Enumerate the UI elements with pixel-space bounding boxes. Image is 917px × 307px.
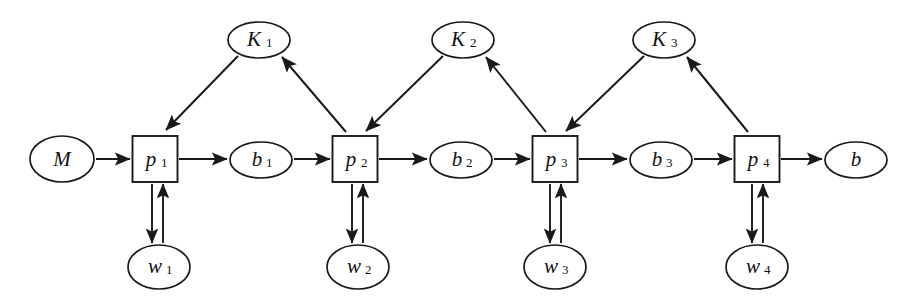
node-p3-label: p <box>544 147 557 171</box>
node-K1[interactable]: K 1 <box>228 22 290 58</box>
node-b3-label: b <box>652 147 663 171</box>
node-p1-subscript: 1 <box>161 155 168 170</box>
node-K2-subscript: 2 <box>470 35 477 50</box>
node-K2-label: K <box>450 27 466 51</box>
node-b2-subscript: 2 <box>466 155 473 170</box>
node-p2[interactable]: p 2 <box>333 136 378 182</box>
node-K1-subscript: 1 <box>266 35 273 50</box>
node-p3[interactable]: p 3 <box>533 136 578 182</box>
node-p3-subscript: 3 <box>561 155 568 170</box>
node-w3-label: w <box>544 254 558 278</box>
edge-p1-w1-double <box>152 184 163 243</box>
node-w2-label: w <box>347 254 361 278</box>
edge-p4-to-K3 <box>687 57 748 132</box>
node-w1-label: w <box>148 254 162 278</box>
edge-K3-to-p3 <box>566 56 644 131</box>
diagram-canvas: M p 1 b 1 p 2 b 2 p 3 <box>0 0 917 307</box>
edge-K2-to-p2 <box>366 56 443 131</box>
node-w4-label: w <box>746 254 760 278</box>
node-K3-label: K <box>651 27 667 51</box>
node-K3-subscript: 3 <box>671 35 678 50</box>
node-w4-subscript: 4 <box>764 262 771 277</box>
node-w2[interactable]: w 2 <box>327 245 389 289</box>
edge-p2-to-K1 <box>282 57 346 132</box>
edge-p4-w4-double <box>752 184 763 243</box>
node-M[interactable]: M <box>30 136 94 182</box>
node-b[interactable]: b <box>825 142 887 178</box>
node-p4-label: p <box>746 147 759 171</box>
node-b1[interactable]: b 1 <box>230 142 292 178</box>
node-w1-subscript: 1 <box>166 262 173 277</box>
edge-p3-w3-double <box>550 184 561 243</box>
node-b3[interactable]: b 3 <box>630 142 692 178</box>
node-b1-subscript: 1 <box>266 155 273 170</box>
node-w2-subscript: 2 <box>365 262 372 277</box>
edge-K1-to-p1 <box>166 56 238 130</box>
node-b-label: b <box>851 147 862 171</box>
node-w4[interactable]: w 4 <box>726 245 788 289</box>
node-b2-label: b <box>452 147 463 171</box>
node-b3-subscript: 3 <box>666 155 673 170</box>
node-p1[interactable]: p 1 <box>133 136 178 182</box>
node-b1-label: b <box>252 147 263 171</box>
node-w3[interactable]: w 3 <box>524 245 586 289</box>
node-K3[interactable]: K 3 <box>633 22 695 58</box>
edge-p2-w2-double <box>352 184 363 243</box>
node-p2-label: p <box>344 147 357 171</box>
node-w1[interactable]: w 1 <box>128 245 190 289</box>
node-p2-subscript: 2 <box>361 155 368 170</box>
node-M-label: M <box>52 147 72 171</box>
node-K1-label: K <box>246 27 262 51</box>
node-p4[interactable]: p 4 <box>735 136 780 182</box>
node-w3-subscript: 3 <box>562 262 569 277</box>
node-K2[interactable]: K 2 <box>432 22 494 58</box>
diagram-svg: M p 1 b 1 p 2 b 2 p 3 <box>0 0 917 307</box>
node-p1-label: p <box>144 147 157 171</box>
node-p4-subscript: 4 <box>763 155 770 170</box>
node-b2[interactable]: b 2 <box>430 142 492 178</box>
edge-p3-to-K2 <box>486 57 546 132</box>
